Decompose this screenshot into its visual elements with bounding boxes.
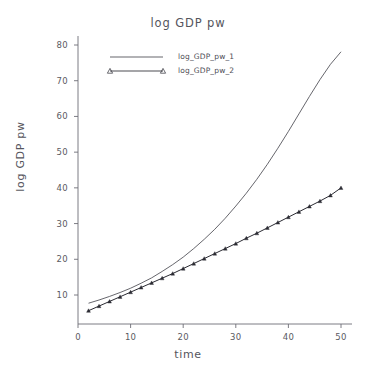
y-tick-label: 50 bbox=[48, 147, 68, 157]
series-line-1 bbox=[89, 52, 341, 303]
series-line-2 bbox=[89, 188, 341, 311]
x-tick-label: 10 bbox=[120, 332, 142, 342]
y-tick-label: 80 bbox=[48, 40, 68, 50]
y-tick-label: 40 bbox=[48, 183, 68, 193]
x-tick-label: 50 bbox=[330, 332, 352, 342]
chart-container: log GDP pw log GDP pw time 1020304050607… bbox=[0, 0, 376, 378]
y-tick-label: 30 bbox=[48, 219, 68, 229]
y-tick-label: 10 bbox=[48, 290, 68, 300]
x-tick-label: 0 bbox=[67, 332, 89, 342]
x-tick-label: 40 bbox=[277, 332, 299, 342]
y-tick-label: 20 bbox=[48, 254, 68, 264]
series-markers-2 bbox=[87, 186, 343, 312]
x-tick-label: 20 bbox=[172, 332, 194, 342]
legend-label-1: log_GDP_pw_1 bbox=[178, 52, 234, 61]
x-tick-label: 30 bbox=[225, 332, 247, 342]
y-tick-label: 70 bbox=[48, 76, 68, 86]
legend-label-2: log_GDP_pw_2 bbox=[178, 66, 234, 75]
y-tick-label: 60 bbox=[48, 111, 68, 121]
